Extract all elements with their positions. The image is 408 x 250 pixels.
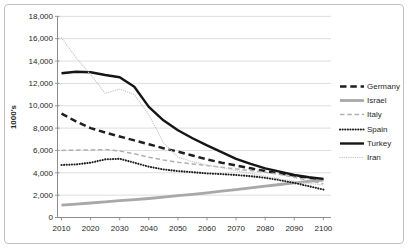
- legend-label: Italy: [367, 110, 382, 119]
- chart-figure: 02,0004,0006,0008,00010,00012,00014,0001…: [0, 0, 408, 250]
- x-tick-label: 2030: [111, 224, 129, 233]
- x-tick-label: 2050: [169, 224, 187, 233]
- x-tick-label: 2100: [315, 224, 333, 233]
- chart-legend: GermanyIsraelItalySpainTurkeyIran: [339, 79, 400, 165]
- x-tick-label: 2070: [227, 224, 245, 233]
- legend-item-israel: Israel: [339, 93, 400, 107]
- legend-item-spain: Spain: [339, 122, 400, 136]
- y-tick-label: 0: [49, 213, 54, 222]
- y-tick-label: 8,000: [33, 124, 54, 133]
- legend-line-sample-turkey: [339, 138, 365, 149]
- y-tick-label: 12,000: [29, 79, 54, 88]
- legend-item-iran: Iran: [339, 150, 400, 164]
- legend-line-sample-germany: [339, 81, 365, 92]
- legend-line-sample-spain: [339, 124, 365, 135]
- legend-line-sample-israel: [339, 95, 365, 106]
- legend-line-sample-iran: [339, 152, 365, 163]
- y-tick-label: 18,000: [29, 12, 54, 21]
- legend-line-sample-italy: [339, 109, 365, 120]
- y-tick-label: 4,000: [33, 169, 54, 178]
- legend-item-turkey: Turkey: [339, 136, 400, 150]
- x-tick-label: 2020: [82, 224, 100, 233]
- series-line-israel: [62, 180, 324, 205]
- x-tick-label: 2040: [140, 224, 158, 233]
- legend-item-italy: Italy: [339, 108, 400, 122]
- legend-label: Turkey: [367, 139, 391, 148]
- x-tick-label: 2080: [256, 224, 274, 233]
- x-tick-label: 2060: [198, 224, 216, 233]
- y-tick-label: 6,000: [33, 146, 54, 155]
- legend-label: Iran: [367, 153, 381, 162]
- y-tick-label: 10,000: [29, 101, 54, 110]
- series-line-germany: [62, 114, 324, 180]
- y-tick-label: 2,000: [33, 191, 54, 200]
- x-tick-label: 2090: [285, 224, 303, 233]
- legend-label: Germany: [367, 82, 400, 91]
- x-tick-label: 2010: [53, 224, 71, 233]
- series-line-iran: [62, 38, 324, 186]
- y-axis-title: 1000's: [9, 104, 18, 129]
- legend-label: Israel: [367, 96, 387, 105]
- y-tick-label: 16,000: [29, 34, 54, 43]
- y-tick-label: 14,000: [29, 57, 54, 66]
- legend-item-germany: Germany: [339, 79, 400, 93]
- legend-label: Spain: [367, 125, 387, 134]
